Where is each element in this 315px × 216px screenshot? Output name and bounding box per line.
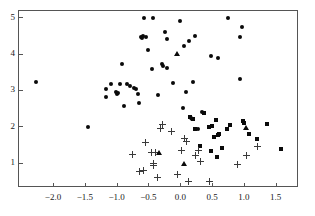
data-point-triangle: [243, 125, 249, 130]
data-point-circle: [193, 34, 197, 38]
data-point-circle: [134, 87, 138, 91]
data-point-circle: [163, 30, 167, 34]
data-point-plus: [183, 138, 190, 145]
y-tick-mark: [19, 17, 23, 18]
data-point-circle: [187, 39, 191, 43]
data-point-circle: [191, 80, 195, 84]
x-tick-mark: [212, 183, 213, 187]
y-tick-mark: [19, 126, 23, 127]
data-point-circle: [182, 44, 186, 48]
data-points-layer: [19, 11, 299, 188]
data-point-circle: [137, 101, 141, 105]
data-point-plus: [129, 151, 136, 158]
data-point-square: [212, 135, 216, 139]
data-point-plus: [243, 152, 250, 159]
data-point-triangle: [156, 150, 162, 155]
data-point-square: [255, 137, 259, 141]
data-point-plus: [150, 162, 157, 169]
data-point-plus: [159, 121, 166, 128]
data-point-circle: [116, 91, 120, 95]
data-point-plus: [154, 174, 161, 181]
data-point-circle: [171, 81, 175, 85]
data-point-square: [265, 122, 269, 126]
data-point-circle: [144, 35, 148, 39]
data-point-plus: [195, 147, 202, 154]
y-tick-label: 4: [1, 49, 15, 58]
data-point-plus: [168, 128, 175, 135]
data-point-square: [279, 147, 283, 151]
x-tick-mark: [180, 183, 181, 187]
y-tick-label: 2: [1, 122, 15, 131]
x-tick-mark: [117, 183, 118, 187]
data-point-circle: [238, 35, 242, 39]
data-point-square: [225, 127, 229, 131]
data-point-circle: [216, 56, 220, 60]
y-tick-label: 3: [1, 85, 15, 94]
y-tick-mark: [19, 90, 23, 91]
data-point-circle: [165, 37, 169, 41]
x-tick-mark: [276, 183, 277, 187]
data-point-plus: [197, 158, 204, 165]
data-point-circle: [122, 104, 126, 108]
data-point-square: [209, 149, 213, 153]
x-tick-mark: [53, 183, 54, 187]
data-point-square: [247, 132, 251, 136]
data-point-plus: [174, 171, 181, 178]
x-tick-mark: [148, 183, 149, 187]
data-point-circle: [209, 54, 213, 58]
data-point-circle: [150, 67, 154, 71]
data-point-circle: [86, 125, 90, 129]
data-point-circle: [151, 16, 155, 20]
data-point-plus: [178, 147, 185, 154]
data-point-circle: [181, 106, 185, 110]
data-point-circle: [104, 95, 108, 99]
data-point-circle: [184, 90, 188, 94]
data-point-circle: [238, 77, 242, 81]
y-tick-mark: [19, 163, 23, 164]
scatter-plot-figure: −2.0−1.5−1.0−0.50.00.51.01.512345: [0, 0, 315, 216]
data-point-square: [217, 132, 221, 136]
data-point-circle: [118, 82, 122, 86]
y-tick-label: 5: [1, 13, 15, 22]
x-tick-mark: [85, 183, 86, 187]
data-point-triangle: [174, 51, 180, 56]
data-point-circle: [142, 16, 146, 20]
data-point-plus: [185, 178, 192, 185]
data-point-circle: [165, 66, 169, 70]
data-point-square: [202, 111, 206, 115]
y-tick-label: 1: [1, 158, 15, 167]
data-point-plus: [142, 139, 149, 146]
data-point-square: [215, 155, 219, 159]
data-point-circle: [120, 62, 124, 66]
data-point-square: [191, 117, 195, 121]
data-point-square: [220, 146, 224, 150]
data-point-triangle: [181, 161, 187, 166]
data-point-circle: [240, 25, 244, 29]
x-tick-mark: [244, 183, 245, 187]
data-point-circle: [226, 16, 230, 20]
data-point-circle: [136, 92, 140, 96]
data-point-circle: [109, 82, 113, 86]
data-point-square: [228, 123, 232, 127]
data-point-plus: [234, 161, 241, 168]
y-tick-mark: [19, 54, 23, 55]
data-point-square: [207, 125, 211, 129]
data-point-square: [193, 127, 197, 131]
data-point-circle: [34, 80, 38, 84]
data-point-square: [214, 118, 218, 122]
data-point-plus: [140, 167, 147, 174]
x-tick-label: 1.5: [256, 193, 296, 202]
data-point-circle: [146, 48, 150, 52]
data-point-circle: [178, 19, 182, 23]
data-point-circle: [156, 93, 160, 97]
data-point-plus: [254, 143, 261, 150]
data-point-circle: [104, 87, 108, 91]
plot-area-frame: [18, 10, 298, 187]
